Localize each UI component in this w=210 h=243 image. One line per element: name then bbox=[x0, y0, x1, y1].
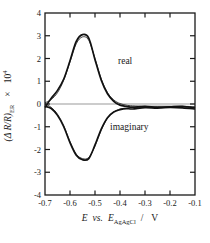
x-axis-symbol-E: E bbox=[82, 213, 88, 223]
y-tick-label: -2 bbox=[34, 145, 41, 155]
x-axis-reference-E: E bbox=[108, 213, 114, 223]
plot-area bbox=[0, 0, 210, 243]
data-curves bbox=[45, 34, 195, 160]
x-tick-label: -0.1 bbox=[188, 198, 201, 208]
x-tick-label: -0.5 bbox=[88, 198, 101, 208]
x-axis-title: Evs.EAgAgCl/V bbox=[45, 213, 195, 223]
x-axis-unit: V bbox=[151, 213, 158, 223]
y-axis-title-subscript: ER bbox=[8, 105, 15, 113]
x-tick-label: -0.2 bbox=[163, 198, 176, 208]
y-tick-label: -3 bbox=[34, 167, 41, 177]
y-axis-power-base: 10 bbox=[3, 74, 13, 84]
y-axis-title: (Δ R/R)ER×104 bbox=[3, 12, 17, 200]
series-path-real-experimental bbox=[45, 34, 195, 108]
electroreflectance-figure: 43210-1-2-3-4 -0.7-0.6-0.5-0.4-0.3-0.2-0… bbox=[0, 0, 210, 243]
y-tick-label: 1 bbox=[37, 76, 41, 86]
y-axis-power-exponent: 4 bbox=[1, 71, 8, 74]
x-tick-label: -0.7 bbox=[38, 198, 51, 208]
real-curve-label: real bbox=[118, 56, 132, 66]
y-tick-label: 4 bbox=[37, 8, 41, 18]
series-path-imaginary-experimental bbox=[45, 106, 195, 160]
x-tick-label: -0.3 bbox=[138, 198, 151, 208]
imaginary-curve-label: imaginary bbox=[110, 122, 149, 132]
y-tick-label: 0 bbox=[37, 99, 41, 109]
times-sign: × bbox=[3, 91, 13, 96]
x-tick-label: -0.4 bbox=[113, 198, 126, 208]
y-tick-label: 2 bbox=[37, 54, 41, 64]
y-tick-label: 3 bbox=[37, 31, 41, 41]
series-path-real-fit bbox=[45, 37, 195, 107]
x-axis-reference-subscript: AgAgCl bbox=[114, 218, 136, 225]
slash-separator: / bbox=[141, 213, 144, 223]
y-axis-title-main: (Δ R/R) bbox=[3, 113, 13, 141]
x-axis-vs-text: vs. bbox=[93, 213, 103, 223]
x-tick-label: -0.6 bbox=[63, 198, 76, 208]
y-tick-label: -1 bbox=[34, 122, 41, 132]
